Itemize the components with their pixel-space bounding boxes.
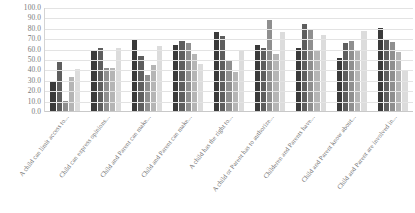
x-axis-label-slot: Child can express opinions... (85, 112, 126, 212)
bar (214, 32, 219, 112)
bar (192, 54, 197, 112)
gridline (45, 39, 413, 40)
gridline (45, 8, 413, 9)
bar (273, 54, 278, 112)
bar (110, 68, 115, 112)
bar (233, 72, 238, 112)
y-axis-tick-label: 90.0 (28, 15, 41, 22)
y-axis-tick-label: 60.0 (28, 46, 41, 53)
y-axis-tick-label: 0.0 (31, 108, 41, 115)
bar (267, 20, 272, 112)
bar (302, 24, 307, 112)
y-axis-tick-label: 10.0 (28, 98, 41, 105)
bar (321, 35, 326, 112)
y-axis-tick-label: 40.0 (28, 67, 41, 74)
x-axis-label-slot: A child can limit access to... (44, 112, 85, 212)
plot-area (44, 8, 413, 112)
gridline (45, 81, 413, 82)
x-axis-label-slot: Childeren and Parents have... (290, 112, 331, 212)
bar (226, 60, 231, 112)
x-axis-label-slot: Child and Parent can make... (126, 112, 167, 212)
bar (337, 58, 342, 112)
gridline (45, 91, 413, 92)
gridline (45, 18, 413, 19)
gridline (45, 70, 413, 71)
gridline (45, 29, 413, 30)
gridline (45, 50, 413, 51)
bar (69, 77, 74, 112)
x-axis-label-slot: Child and Parent know about... (331, 112, 372, 212)
y-axis-tick-label: 50.0 (28, 56, 41, 63)
x-axis-label-slot: Child and Parent are involved in... (372, 112, 413, 212)
bar (104, 68, 109, 112)
y-axis-tick-label: 70.0 (28, 35, 41, 42)
bar (361, 31, 366, 112)
bar (50, 81, 55, 112)
y-axis-tick-label: 80.0 (28, 25, 41, 32)
y-axis: 100.090.080.070.060.050.040.030.020.010.… (0, 8, 44, 112)
x-axis-label-slot: A child has the right to... (208, 112, 249, 212)
y-axis-tick-label: 30.0 (28, 77, 41, 84)
gridline (45, 60, 413, 61)
gridline (45, 102, 413, 103)
y-axis-tick-label: 100.0 (24, 4, 41, 11)
x-axis-label-slot: A child or Parent has to authorize... (249, 112, 290, 212)
y-axis-tick-label: 20.0 (28, 87, 41, 94)
bar (138, 56, 143, 112)
bar (151, 65, 156, 112)
grouped-bar-chart: 100.090.080.070.060.050.040.030.020.010.… (0, 0, 415, 213)
bar (280, 32, 285, 112)
x-axis-label-slot: Child and Parent can make... (167, 112, 208, 212)
x-axis-labels: A child can limit access to...Child can … (44, 112, 413, 213)
